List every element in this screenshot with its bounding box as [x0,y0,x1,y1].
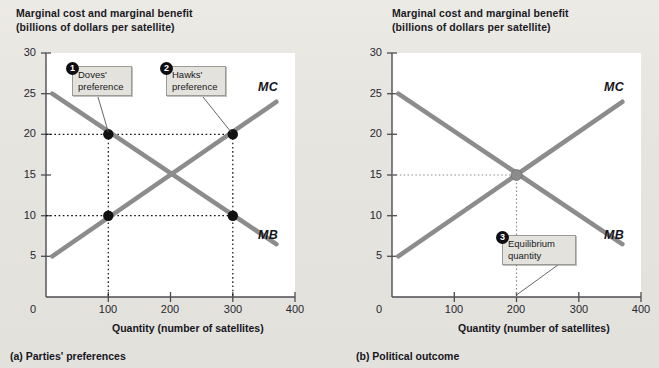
y-tick-label-20-b: 20 [360,127,382,139]
figure-canvas: Marginal cost and marginal benefit (bill… [0,0,659,368]
badge-3: 3 [496,231,509,244]
y-tick-label-30-b: 30 [360,46,382,58]
badge-2: 2 [160,62,173,75]
panel-political-outcome: Marginal cost and marginal benefit (bill… [330,0,659,368]
curve-label-mb-a: MB [258,228,278,242]
x-axis-title-b: Quantity (number of satellites) [458,322,610,334]
callout-doves-preference[interactable]: Doves' preference [72,66,132,96]
callout-doves-line2: preference [78,81,126,93]
callout-hawks-preference[interactable]: Hawks' preference [166,66,226,96]
y-tick-label-25-a: 25 [14,87,36,99]
y-tick-label-15-a: 15 [14,168,36,180]
y-tick-label-0-b: 0 [360,303,382,315]
curve-label-mb-b: MB [604,228,624,242]
x-tick-label-200-a: 200 [155,303,185,315]
badge-1: 1 [66,62,79,75]
y-tick-label-10-a: 10 [14,209,36,221]
curve-mb-b [398,94,622,244]
marker-hawks-benefit-a [228,211,238,221]
y-tick-label-20-a: 20 [14,127,36,139]
y-tick-label-10-b: 10 [360,209,382,221]
marker-equilibrium-b [511,170,522,181]
panel-caption-b: (b) Political outcome [356,350,459,362]
y-tick-label-0-a: 0 [14,303,36,315]
callout-doves-line1: Doves' [78,69,126,81]
marker-doves-cost-a [103,211,113,221]
x-axis-title-a: Quantity (number of satellites) [112,322,264,334]
x-tick-label-300-b: 300 [564,303,594,315]
curve-mc-b [398,102,622,256]
x-tick-label-100-b: 100 [439,303,469,315]
x-tick-label-400-a: 400 [280,303,310,315]
y-tick-label-5-a: 5 [14,249,36,261]
curve-mc-a [52,102,276,256]
y-tick-label-25-b: 25 [360,87,382,99]
x-tick-label-100-a: 100 [93,303,123,315]
callout-hawks-line1: Hawks' [172,69,220,81]
callout-equilibrium-line2: quantity [508,250,570,262]
leader-line-callout-3-b [517,262,563,295]
callout-hawks-line2: preference [172,81,220,93]
leader-line-callout-2-a [203,97,231,132]
panel-parties-preferences: Marginal cost and marginal benefit (bill… [0,0,329,368]
panel-caption-a: (a) Parties' preferences [10,350,126,362]
callout-equilibrium-quantity[interactable]: Equilibrium quantity [502,235,576,265]
callout-equilibrium-line1: Equilibrium [508,238,570,250]
marker-hawks-preference-a [228,129,238,139]
y-tick-label-30-a: 30 [14,46,36,58]
x-tick-label-300-a: 300 [218,303,248,315]
x-tick-label-200-b: 200 [501,303,531,315]
curve-label-mc-a: MC [258,80,278,94]
curve-label-mc-b: MC [604,80,624,94]
y-tick-label-5-b: 5 [360,249,382,261]
y-tick-label-15-b: 15 [360,168,382,180]
x-tick-label-400-b: 400 [626,303,656,315]
curve-mb-a [52,94,276,244]
